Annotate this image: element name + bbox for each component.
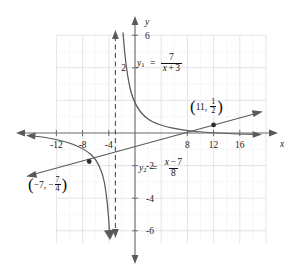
vertical-asymptote-line	[112, 30, 119, 238]
y-axis-label: y	[144, 17, 150, 27]
x-tick--12: -12	[50, 140, 63, 150]
point-label-11-half: ( 11 , 1 2 )	[190, 98, 223, 115]
point-y-sign: −	[48, 180, 53, 190]
point-marker-neg7-neg7over4	[87, 159, 92, 164]
y1-numerator: 7	[167, 53, 176, 63]
y2-denominator: 8	[169, 168, 178, 179]
x-tick--8: -8	[79, 140, 87, 150]
y2-fraction: x−7 8	[163, 158, 184, 179]
y-tick-6: 6	[145, 31, 150, 41]
coordinate-plane-svg: -12 -8 -4 8 12 16 6 2 -2 -4 -6 y x	[0, 0, 303, 270]
y1-fraction: 7 x+3	[161, 53, 182, 74]
x-tick-16: 16	[235, 140, 245, 150]
point-comma: ,	[44, 180, 46, 190]
x-axis	[16, 130, 278, 137]
point-y-fraction: 1 2	[210, 98, 216, 115]
curve-y1-right-branch	[123, 33, 262, 138]
close-paren: )	[217, 98, 223, 115]
y2-subscript: 2	[143, 166, 146, 173]
point-marker-11-half	[211, 123, 216, 128]
y1-equals: =	[150, 58, 155, 68]
equation-label-y2: y2 = x−7 8	[139, 158, 184, 179]
point-comma: ,	[205, 102, 207, 112]
point-y-fraction: 7 4	[55, 176, 61, 193]
close-paren: )	[62, 176, 68, 193]
y1-denominator: x+3	[161, 63, 182, 74]
point-x-value: 11	[196, 102, 205, 112]
x-tick-12: 12	[209, 140, 219, 150]
y-tick--6: -6	[146, 226, 154, 236]
x-axis-label: x	[279, 139, 285, 149]
x-tick-labels: -12 -8 -4 8 12 16	[50, 140, 245, 150]
y-tick--4: -4	[146, 194, 154, 204]
x-tick-8: 8	[185, 140, 190, 150]
y-tick-2: 2	[121, 63, 126, 73]
y2-numerator: x−7	[163, 158, 184, 168]
x-tick--4: -4	[105, 140, 113, 150]
point-x-value: −7	[34, 180, 44, 190]
equation-label-y1: y1 = 7 x+3	[137, 53, 182, 74]
graph-figure: -12 -8 -4 8 12 16 6 2 -2 -4 -6 y x y1 = …	[0, 0, 303, 270]
y2-equals: =	[152, 163, 157, 173]
point-label-neg7-neg7over4: ( −7 , − 7 4 )	[28, 176, 67, 193]
y1-subscript: 1	[141, 61, 144, 68]
